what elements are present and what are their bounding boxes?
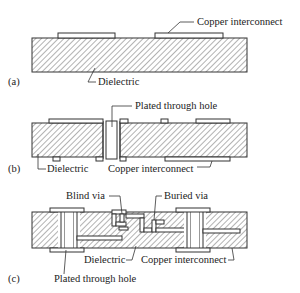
copper-pad [120,119,128,123]
leader-line [64,250,66,274]
label-buried-via: Buried via [164,190,208,201]
copper-pad [155,33,223,38]
copper-pad [53,157,60,161]
copper-pad [120,157,126,161]
copper-pad [161,119,168,123]
inner-copper-trace [203,229,240,233]
copper-pad [196,119,230,123]
plated-through-hole [64,210,74,250]
dielectric-substrate [32,38,247,72]
panel-c: Blind via Buried via Dielectric Copper i… [8,190,247,285]
label-copper-interconnect: Copper interconnect [197,16,283,27]
copper-pad [50,248,84,252]
copper-pad [50,208,84,212]
label-copper-interconnect: Copper interconnect [141,254,227,265]
label-dielectric: Dielectric [47,163,89,174]
label-blind-via: Blind via [66,190,105,201]
label-dielectric: Dielectric [98,76,140,87]
copper-pad [176,208,210,212]
label-plated-through-hole: Plated through hole [135,100,218,111]
label-plated-through-hole: Plated through hole [54,273,137,284]
copper-pad [58,33,115,38]
panel-label-c: (c) [8,273,20,285]
dielectric-left [32,123,103,157]
leader-line [228,248,234,260]
panel-b: Plated through hole Dielectric Copper in… [8,100,247,175]
panel-label-b: (b) [8,163,21,175]
label-dielectric: Dielectric [84,254,126,265]
panel-a: Copper interconnect Dielectric (a) [8,16,283,88]
panel-label-a: (a) [8,76,20,88]
pcb-interconnect-diagram: Copper interconnect Dielectric (a) Plate… [0,0,300,293]
plated-through-hole [106,121,117,159]
copper-pad [96,157,103,161]
leader-line [197,161,212,167]
plated-through-hole [190,210,200,250]
copper-pad [49,119,103,123]
leader-line [168,22,194,33]
dielectric-right [120,123,247,157]
inner-copper-trace [77,236,122,240]
copper-pad [165,157,230,161]
copper-pad [176,248,210,252]
label-copper-interconnect: Copper interconnect [108,163,194,174]
